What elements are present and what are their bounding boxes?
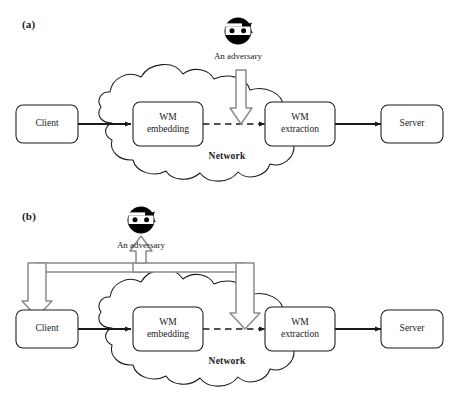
adversary-label-a: An adversary [196, 51, 280, 61]
adversary-icon-a [225, 18, 254, 45]
wm-embedding-label-line2-b: embedding [133, 329, 203, 340]
panel-b-graphics [0, 205, 458, 410]
adversary-icon-b [128, 207, 157, 234]
attack-bus-right-b [133, 263, 245, 272]
server-label-b: Server [381, 323, 443, 334]
wm-embedding-label-line1-b: WM [133, 317, 203, 328]
wm-embedding-label-line1-a: WM [133, 112, 203, 123]
adversary-label-b: An adversary [99, 240, 183, 250]
wm-embedding-label-line2-a: embedding [133, 124, 203, 135]
wm-extraction-label-line1-b: WM [265, 317, 335, 328]
wm-extraction-label-line2-b: extraction [265, 329, 335, 340]
panel-b: (b) [0, 205, 458, 410]
server-label-a: Server [381, 118, 443, 129]
client-label-b: Client [16, 323, 78, 334]
wm-extraction-label-line2-a: extraction [265, 124, 335, 135]
network-label-a: Network [184, 151, 270, 162]
network-label-b: Network [184, 356, 270, 367]
attack-bus-left-b [37, 263, 149, 272]
wm-extraction-label-line1-a: WM [265, 112, 335, 123]
figure-container: (a) [0, 0, 458, 410]
panel-a: (a) [0, 0, 458, 205]
panel-a-graphics [0, 0, 458, 205]
client-label-a: Client [16, 118, 78, 129]
